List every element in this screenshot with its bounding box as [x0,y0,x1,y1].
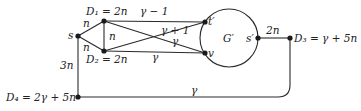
edge-D1-t-prime [104,21,205,22]
graph-diagram: s D₁ = 2n D₂ = 2n t′ v s′ D₃ = γ + 5n D₄… [0,0,361,111]
node-s [75,33,80,38]
label-t-prime: t′ [208,15,215,27]
edge-label-s-prime-D3: 2n [265,24,280,36]
node-s-prime [255,35,260,40]
edge-label-D1-D2: n [109,30,116,42]
edge-label-D2-v: γ [152,51,159,63]
edge-s-D2 [78,36,104,51]
node-t-prime [202,19,207,24]
label-D2: D₂ = 2n [85,53,128,65]
edge-label-D4-D3: γ [191,84,198,96]
label-v: v [208,47,214,59]
edge-label-D1-v: γ [172,35,179,47]
edge-s-D1 [78,21,104,36]
label-s: s [68,29,74,41]
node-v [202,50,207,55]
node-D1 [101,18,106,23]
edge-label-D1-t: γ − 1 [140,5,168,17]
label-G-prime: G′ [223,32,234,44]
label-D4: D₄ = 2γ + 5n [5,91,76,103]
edge-label-s-D4: 3n [60,59,74,71]
node-D3 [287,35,292,40]
node-D4 [75,94,80,99]
edge-label-s-D1: n [83,17,90,29]
label-D3: D₃ = γ + 5n [293,32,358,44]
label-s-prime: s′ [246,32,254,44]
edge-label-s-D2: n [83,41,90,53]
label-D1: D₁ = 2n [85,5,128,17]
